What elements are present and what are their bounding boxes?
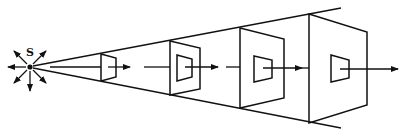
diagram-canvas: S [0,0,408,133]
source-label: S [26,46,34,59]
beam-bottom-edge [33,68,341,128]
frame-2 [170,41,200,95]
point-source: S [8,46,46,91]
inner-square [177,55,192,81]
frame-outline [170,41,200,95]
inner-square [254,56,272,82]
central-ray [50,67,398,69]
source-dot-icon [27,64,32,69]
inverse-square-diagram: S [0,0,408,133]
